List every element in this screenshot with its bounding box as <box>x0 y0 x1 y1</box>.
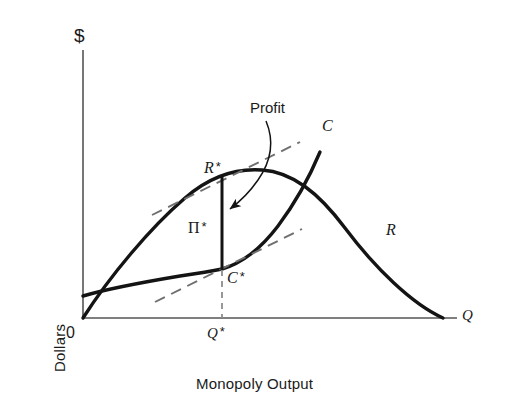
star-glyph: * <box>240 269 245 284</box>
star-glyph: * <box>220 324 225 339</box>
tangent-at-r-star <box>152 142 300 215</box>
figure-monopoly-output: $ Dollars Monopoly Output 0 Q C R R* C* … <box>0 0 507 415</box>
curve-label-r: R <box>386 222 396 238</box>
point-label-r-star-text: R <box>204 159 214 176</box>
profit-annotation-label: Profit <box>250 100 285 115</box>
y-axis-title: Dollars <box>52 324 67 372</box>
profit-amount-label: Π* <box>188 220 207 236</box>
star-glyph: * <box>202 219 207 234</box>
origin-label: 0 <box>66 325 75 341</box>
curve-label-c: C <box>322 118 333 134</box>
x-axis-title: Monopoly Output <box>196 376 313 391</box>
x-axis-end-label: Q <box>462 308 473 323</box>
point-label-c-star-text: C <box>227 269 238 286</box>
point-label-q-star: Q* <box>207 325 225 341</box>
star-glyph: * <box>216 159 221 174</box>
point-label-q-star-text: Q <box>207 325 218 341</box>
point-label-r-star: R* <box>204 160 221 176</box>
profit-callout-leader <box>230 121 271 209</box>
y-axis-unit-symbol: $ <box>74 26 85 45</box>
tangent-at-c-star <box>155 229 302 302</box>
profit-amount-label-text: Π <box>188 219 200 236</box>
diagram-canvas <box>0 0 507 415</box>
point-label-c-star: C* <box>227 270 245 286</box>
